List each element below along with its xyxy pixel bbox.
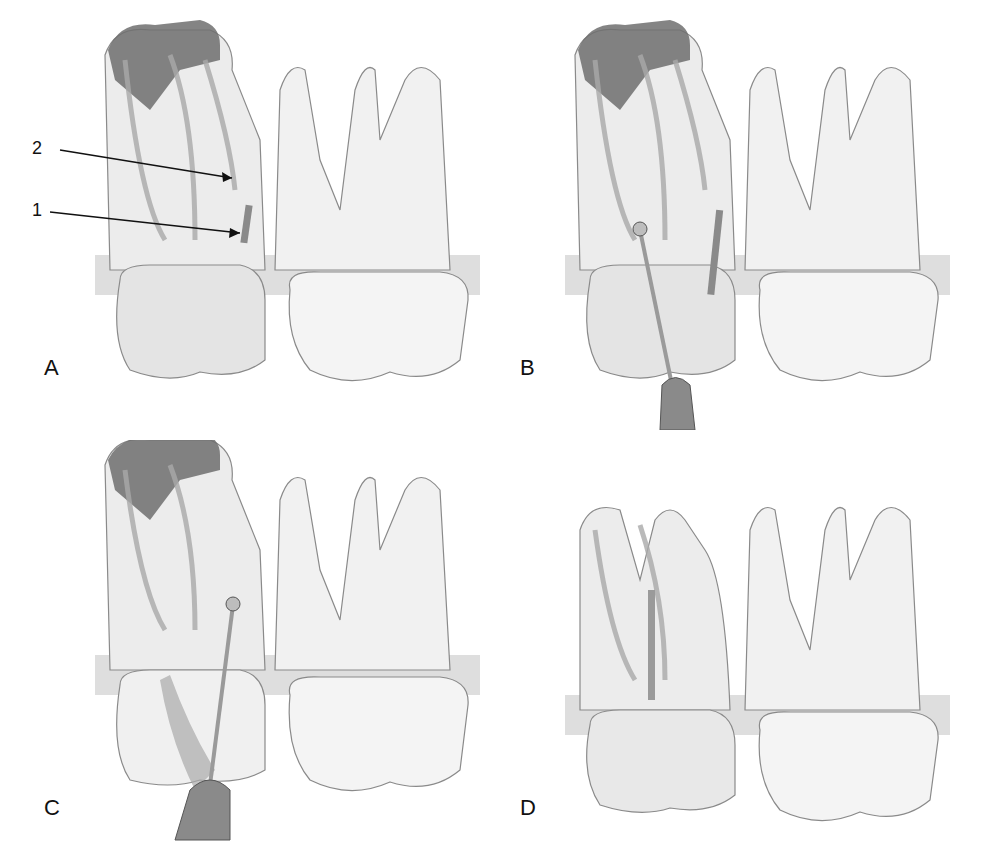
panel-b: B bbox=[490, 0, 960, 430]
crown-right bbox=[759, 712, 938, 821]
panel-a: 2 1 A bbox=[20, 0, 490, 430]
post bbox=[648, 590, 655, 700]
crown-right bbox=[289, 677, 468, 791]
crown-restored bbox=[587, 710, 735, 812]
bur-head bbox=[633, 222, 647, 236]
panel-c-illustration bbox=[20, 440, 490, 868]
callout-2: 2 bbox=[32, 138, 42, 159]
panel-label-c: C bbox=[44, 795, 60, 821]
panel-label-b: B bbox=[520, 355, 535, 381]
callout-1: 1 bbox=[32, 200, 42, 221]
panel-label-a: A bbox=[44, 355, 59, 381]
crown bbox=[289, 272, 468, 381]
bur-head bbox=[226, 597, 240, 611]
molar-right bbox=[275, 478, 450, 671]
molar-right bbox=[275, 68, 468, 381]
crown bbox=[117, 265, 265, 378]
molar-right bbox=[745, 508, 920, 711]
molar-right bbox=[745, 68, 920, 271]
panel-d: D bbox=[490, 440, 960, 868]
crown-right bbox=[759, 272, 938, 381]
panel-d-illustration bbox=[490, 440, 960, 868]
panel-b-illustration bbox=[490, 0, 960, 430]
panel-a-illustration bbox=[20, 0, 490, 430]
molar-left bbox=[105, 20, 265, 378]
panel-label-d: D bbox=[520, 795, 536, 821]
panel-c: C bbox=[20, 440, 490, 868]
